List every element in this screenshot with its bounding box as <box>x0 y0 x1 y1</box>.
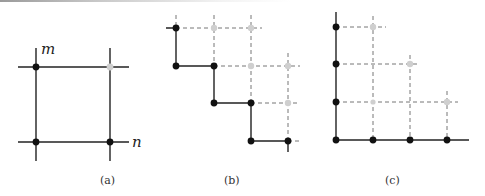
point <box>333 61 340 68</box>
point <box>333 99 340 106</box>
point-grey <box>211 25 217 31</box>
point <box>173 25 180 32</box>
figure-canvas: m n (a) (b) <box>0 0 485 196</box>
caption-a: (a) <box>100 174 115 187</box>
point-grey <box>407 61 413 67</box>
caption-b: (b) <box>224 174 240 187</box>
point <box>285 138 292 145</box>
point-grey <box>285 100 291 106</box>
label-n: n <box>132 133 142 151</box>
point-grey <box>285 63 291 69</box>
point <box>173 63 180 70</box>
panel-a: m n (a) <box>18 40 142 187</box>
caption-c: (c) <box>385 174 400 187</box>
point-grey <box>370 99 375 104</box>
label-m: m <box>41 40 55 58</box>
point <box>211 63 218 70</box>
point <box>444 137 451 144</box>
point <box>407 137 414 144</box>
point-grey <box>370 24 376 30</box>
point-grey <box>444 99 450 105</box>
point <box>248 138 255 145</box>
point-grey <box>248 63 254 69</box>
point <box>33 139 40 146</box>
point <box>333 137 340 144</box>
point <box>33 64 40 71</box>
point <box>211 100 218 107</box>
point <box>333 24 340 31</box>
point <box>370 137 377 144</box>
staircase-path <box>166 28 288 152</box>
panel-b: (b) <box>166 15 300 187</box>
point <box>107 139 114 146</box>
point-grey <box>248 25 254 31</box>
point-grey <box>107 64 114 71</box>
point <box>248 100 255 107</box>
panel-c: (c) <box>333 12 469 187</box>
